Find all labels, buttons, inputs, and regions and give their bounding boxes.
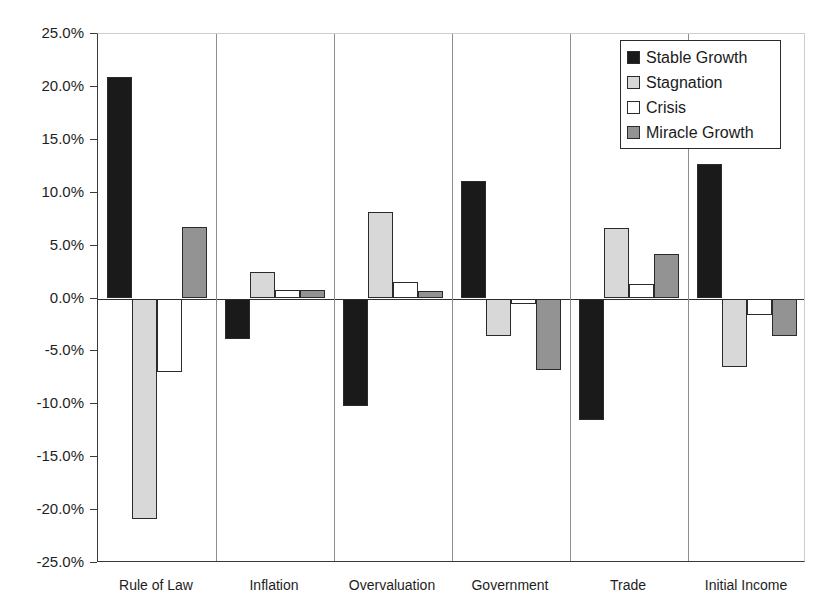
- y-axis-tick-mark: [90, 192, 97, 193]
- bar-stable-growth-rule-of-law: [107, 77, 132, 298]
- bar-stagnation-government: [486, 299, 511, 336]
- y-axis-tick-mark: [90, 245, 97, 246]
- legend-label: Miracle Growth: [646, 125, 754, 141]
- bar-stagnation-trade: [604, 228, 629, 299]
- y-axis-tick-label: -5.0%: [0, 342, 84, 357]
- bar-stagnation-initial-income: [722, 299, 747, 368]
- category-separator: [570, 34, 571, 561]
- bar-miracle-growth-overvaluation: [418, 291, 443, 298]
- legend-label: Crisis: [646, 100, 686, 116]
- y-axis-tick-label: 25.0%: [0, 25, 84, 40]
- legend-swatch-icon: [627, 126, 640, 139]
- bar-stagnation-rule-of-law: [132, 299, 157, 519]
- bar-miracle-growth-initial-income: [772, 299, 797, 336]
- legend-label: Stagnation: [646, 75, 723, 91]
- x-axis-category-label: Initial Income: [687, 578, 805, 592]
- y-axis-tick-label: 0.0%: [0, 290, 84, 305]
- y-axis-tick-mark: [90, 298, 97, 299]
- y-axis-tick-mark: [90, 509, 97, 510]
- y-axis-tick-mark: [90, 33, 97, 34]
- legend-swatch-icon: [627, 101, 640, 114]
- y-axis-tick-mark: [90, 562, 97, 563]
- legend-swatch-icon: [627, 76, 640, 89]
- legend-item: Stable Growth: [627, 45, 774, 70]
- bar-stable-growth-initial-income: [697, 164, 722, 298]
- bar-crisis-trade: [629, 284, 654, 299]
- bar-crisis-government: [511, 299, 536, 304]
- legend-label: Stable Growth: [646, 50, 747, 66]
- category-separator: [216, 34, 217, 561]
- legend-item: Stagnation: [627, 70, 774, 95]
- x-axis-category-label: Government: [451, 578, 569, 592]
- chart-legend: Stable GrowthStagnationCrisisMiracle Gro…: [620, 40, 781, 149]
- bar-miracle-growth-rule-of-law: [182, 227, 207, 299]
- bar-stable-growth-trade: [579, 299, 604, 421]
- bar-stable-growth-government: [461, 181, 486, 298]
- bar-miracle-growth-trade: [654, 254, 679, 298]
- legend-swatch-icon: [627, 51, 640, 64]
- chart-title-clipped: [113, 0, 713, 5]
- y-axis-tick-mark: [90, 86, 97, 87]
- bar-stable-growth-overvaluation: [343, 299, 368, 407]
- y-axis-tick-mark: [90, 350, 97, 351]
- y-axis-tick-mark: [90, 139, 97, 140]
- zero-baseline: [98, 299, 804, 300]
- y-axis-tick-label: 20.0%: [0, 78, 84, 93]
- y-axis-tick-label: 10.0%: [0, 184, 84, 199]
- y-axis-tick-label: -15.0%: [0, 448, 84, 463]
- x-axis-category-label: Inflation: [215, 578, 333, 592]
- y-axis-tick-label: -25.0%: [0, 554, 84, 569]
- y-axis-tick-mark: [90, 403, 97, 404]
- y-axis-tick-label: 15.0%: [0, 131, 84, 146]
- legend-item: Miracle Growth: [627, 120, 774, 145]
- bar-chart: 25.0%20.0%15.0%10.0%5.0%0.0%-5.0%-10.0%-…: [0, 0, 826, 610]
- bar-stagnation-overvaluation: [368, 212, 393, 299]
- bar-stable-growth-inflation: [225, 299, 250, 339]
- bar-crisis-overvaluation: [393, 282, 418, 299]
- x-axis-category-label: Trade: [569, 578, 687, 592]
- x-axis-category-label: Rule of Law: [97, 578, 215, 592]
- x-axis-category-label: Overvaluation: [333, 578, 451, 592]
- y-axis-tick-label: -10.0%: [0, 395, 84, 410]
- y-axis-tick-label: -20.0%: [0, 501, 84, 516]
- y-axis-tick-mark: [90, 456, 97, 457]
- bar-miracle-growth-government: [536, 299, 561, 371]
- bar-crisis-inflation: [275, 290, 300, 298]
- bar-crisis-rule-of-law: [157, 299, 182, 372]
- bar-stagnation-inflation: [250, 272, 275, 298]
- category-separator: [334, 34, 335, 561]
- legend-item: Crisis: [627, 95, 774, 120]
- bar-crisis-initial-income: [747, 299, 772, 316]
- bar-miracle-growth-inflation: [300, 290, 325, 299]
- category-separator: [452, 34, 453, 561]
- y-axis-tick-label: 5.0%: [0, 237, 84, 252]
